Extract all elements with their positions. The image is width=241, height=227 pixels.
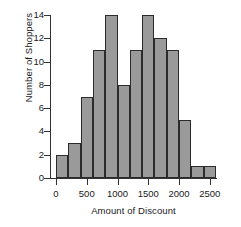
y-tick: 4 [0, 131, 44, 132]
y-tick-mark [44, 108, 50, 109]
y-axis-line [50, 15, 51, 179]
histogram-bar [118, 85, 130, 178]
y-tick: 12 [0, 38, 44, 39]
x-tick-mark [148, 179, 149, 185]
histogram-figure: Number of Shoppers 02468101214 050010001… [0, 0, 241, 227]
y-tick: 10 [0, 62, 44, 63]
x-tick-mark [87, 179, 88, 185]
histogram-bar [130, 50, 142, 178]
y-tick-mark [44, 38, 50, 39]
y-tick: 14 [0, 15, 44, 16]
x-tick-mark [56, 179, 57, 185]
y-tick-mark [44, 178, 50, 179]
y-tick-label: 4 [20, 125, 44, 136]
y-tick-mark [44, 85, 50, 86]
x-tick-label: 2500 [190, 188, 230, 199]
histogram-bar [68, 143, 80, 178]
y-tick-label: 14 [20, 9, 44, 20]
histogram-bar [142, 15, 154, 178]
histogram-bar [204, 166, 216, 178]
y-tick-label: 0 [20, 172, 44, 183]
histogram-bar [93, 50, 105, 178]
histogram-bar [179, 120, 191, 178]
x-tick-mark [210, 179, 211, 185]
histogram-bars [56, 15, 216, 178]
histogram-bar [81, 97, 93, 179]
y-tick-mark [44, 155, 50, 156]
y-axis-title: Number of Shoppers [23, 0, 34, 138]
histogram-bar [154, 38, 166, 178]
y-tick-label: 10 [20, 55, 44, 66]
y-tick-label: 12 [20, 32, 44, 43]
y-tick: 0 [0, 178, 44, 179]
histogram-bar [105, 15, 117, 178]
x-axis-title: Amount of Discount [50, 205, 217, 216]
histogram-bar [191, 166, 203, 178]
x-tick-mark [118, 179, 119, 185]
y-tick: 2 [0, 155, 44, 156]
y-tick-mark [44, 62, 50, 63]
y-tick: 8 [0, 85, 44, 86]
x-axis-line [50, 178, 217, 179]
y-tick-label: 2 [20, 148, 44, 159]
histogram-bar [56, 155, 68, 178]
y-tick-label: 8 [20, 78, 44, 89]
y-tick-label: 6 [20, 102, 44, 113]
y-tick-mark [44, 15, 50, 16]
y-tick: 6 [0, 108, 44, 109]
x-tick-mark [179, 179, 180, 185]
histogram-bar [167, 50, 179, 178]
y-tick-mark [44, 131, 50, 132]
